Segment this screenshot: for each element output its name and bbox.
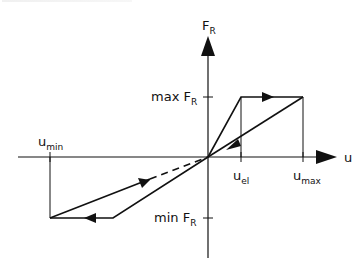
x-axis-arrow-icon xyxy=(316,150,337,164)
plateau-direction-arrow-icon xyxy=(262,92,274,102)
u-max-label: umax xyxy=(293,168,322,186)
u-el-label: uel xyxy=(233,168,249,186)
unloading-line xyxy=(208,97,303,157)
reloading-solid xyxy=(50,179,150,218)
y-axis-arrow-icon xyxy=(201,36,215,56)
positive-loading-path xyxy=(208,97,303,157)
x-axis-label: u xyxy=(344,150,352,165)
force-displacement-diagram: FR u max FR min FR uel umax umin xyxy=(0,0,364,270)
u-min-label: umin xyxy=(38,134,63,152)
axes xyxy=(18,54,318,258)
negative-loading-path xyxy=(50,157,208,218)
y-axis-label: FR xyxy=(202,18,216,36)
negative-plateau-arrow-icon xyxy=(84,213,96,223)
min-force-label: min FR xyxy=(154,210,196,228)
max-force-label: max FR xyxy=(151,89,197,107)
